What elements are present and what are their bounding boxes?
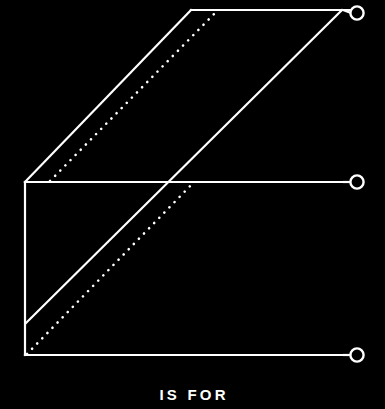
poster-caption: IS FOR	[0, 386, 385, 404]
figure-background	[0, 0, 385, 409]
poster-canvas: IS FOR	[0, 0, 385, 409]
line-art-figure	[0, 0, 385, 409]
